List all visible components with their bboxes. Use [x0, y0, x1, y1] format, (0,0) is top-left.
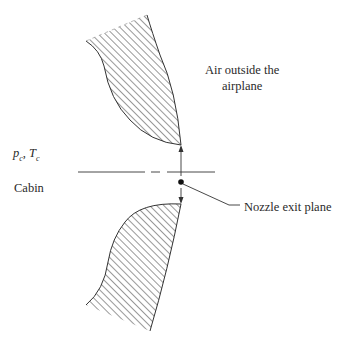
temperature-symbol: T: [29, 146, 36, 160]
upper-wall-section: [86, 15, 181, 145]
nozzle-exit-plane-label: Nozzle exit plane: [244, 200, 331, 215]
arrow-down-icon: [179, 197, 184, 204]
temperature-subscript: c: [36, 154, 40, 163]
cabin-conditions-label: pc, Tc: [13, 146, 40, 163]
arrow-up-icon: [179, 145, 184, 152]
cabin-label: Cabin: [14, 181, 44, 196]
nozzle-diagram: [0, 0, 337, 344]
outside-air-label-line1: Air outside the: [205, 62, 279, 78]
outside-air-label-line2: airplane: [205, 78, 279, 94]
outside-air-label: Air outside the airplane: [205, 62, 279, 94]
leader-line: [183, 184, 240, 205]
nozzle-exit-dot: [178, 179, 184, 185]
